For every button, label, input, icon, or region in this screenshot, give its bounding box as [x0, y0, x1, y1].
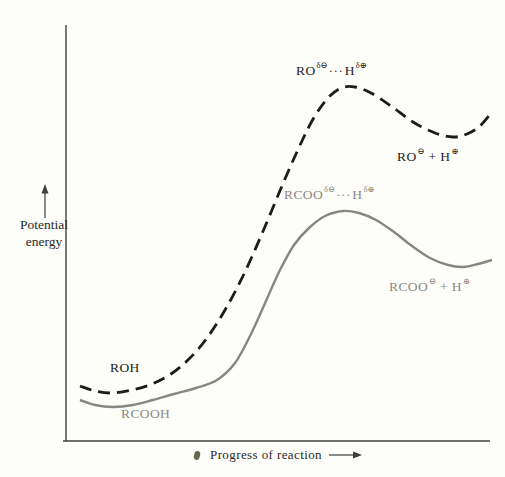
rcoo-transition-state-label: RCOOδ⊖···Hδ⊕: [284, 186, 375, 202]
roh-reactant-label: ROH: [110, 361, 140, 376]
x-axis-arrow-icon: [329, 450, 363, 460]
y-axis-arrow-icon: [42, 184, 49, 218]
energy-diagram-figure: Potential energy ROδ⊖···Hδ⊕ RO⊖ + H⊕ RCO…: [0, 0, 505, 477]
roh-curve: [80, 86, 492, 393]
rcoo-products-label: RCOO⊖ + H⊕: [389, 278, 470, 294]
y-axis-label: Potential energy: [10, 217, 78, 251]
roh-transition-state-label: ROδ⊖···Hδ⊕: [296, 62, 367, 78]
rcooh-curve: [80, 211, 492, 407]
ink-smudge: [193, 450, 201, 460]
x-axis-label-row: Progress of reaction: [194, 447, 363, 463]
curves-group: [80, 86, 492, 407]
ro-products-label: RO⊖ + H⊕: [397, 148, 459, 164]
rcooh-reactant-label: RCOOH: [121, 407, 170, 422]
y-axis-label-line2: energy: [10, 234, 78, 251]
x-axis-label: Progress of reaction: [210, 447, 322, 463]
y-axis-label-line1: Potential: [10, 217, 78, 234]
